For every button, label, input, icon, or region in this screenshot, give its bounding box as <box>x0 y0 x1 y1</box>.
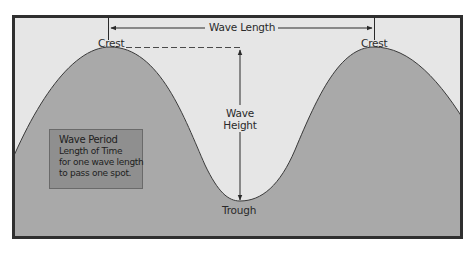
wave-height-label-line2: Height <box>220 119 260 131</box>
trough-label: Trough <box>222 205 256 216</box>
crest-left-label: Crest <box>98 38 124 49</box>
wave-period-line: for one wave length <box>59 157 142 168</box>
wave-period-line: to pass one spot. <box>59 168 142 179</box>
crest-right-label: Crest <box>361 38 387 49</box>
wave-period-box: Wave Period Length of Time for one wave … <box>49 129 143 189</box>
wave-period-line: Length of Time <box>59 146 142 157</box>
wave-length-label: Wave Length <box>206 22 278 33</box>
wave-height-label: Wave Height <box>220 106 260 132</box>
wave-height-label-line1: Wave <box>220 107 260 119</box>
wave-diagram: Wave Length Crest Crest Wave Height Trou… <box>0 0 476 253</box>
wave-period-title: Wave Period <box>59 134 142 146</box>
